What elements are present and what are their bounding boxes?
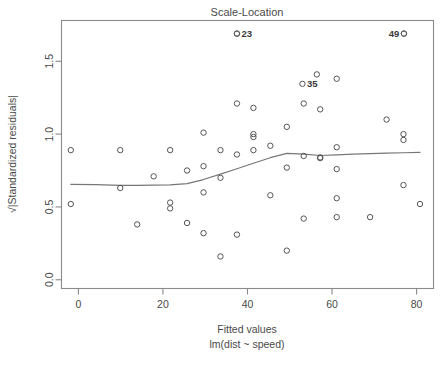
- data-point: [118, 185, 123, 190]
- y-tick-label: 0.5: [43, 199, 55, 214]
- data-point: [167, 147, 172, 152]
- plot-frame: [62, 21, 434, 289]
- y-axis-ticks: 0.00.51.01.5: [43, 54, 61, 287]
- x-tick-label: 80: [411, 298, 423, 310]
- data-point: [401, 137, 406, 142]
- x-tick-label: 20: [157, 298, 169, 310]
- y-tick-label: 0.0: [43, 272, 55, 287]
- data-point: [201, 163, 206, 168]
- data-point: [134, 222, 139, 227]
- data-point: [334, 145, 339, 150]
- loess-smooth-line: [71, 152, 420, 185]
- data-point: [314, 72, 319, 77]
- point-label-23: 23: [241, 28, 252, 39]
- data-point: [384, 117, 389, 122]
- data-point: [201, 190, 206, 195]
- data-point: [301, 216, 306, 221]
- data-point: [268, 143, 273, 148]
- data-point: [234, 152, 239, 157]
- x-tick-label: 60: [326, 298, 338, 310]
- data-point: [268, 193, 273, 198]
- data-point: [334, 76, 339, 81]
- y-tick-label: 1.0: [43, 127, 55, 142]
- labeled-data-point: [401, 31, 406, 36]
- data-point: [201, 230, 206, 235]
- data-point: [118, 147, 123, 152]
- data-point: [334, 214, 339, 219]
- scale-location-plot: Scale-Location 020406080 0.00.51.01.5 23…: [0, 0, 444, 366]
- data-point: [218, 175, 223, 180]
- x-tick-label: 0: [75, 298, 81, 310]
- data-point: [234, 101, 239, 106]
- data-point: [167, 200, 172, 205]
- data-point: [301, 101, 306, 106]
- x-axis-subtitle: lm(dist ~ speed): [210, 338, 285, 350]
- data-point: [184, 168, 189, 173]
- data-point: [167, 206, 172, 211]
- data-point: [234, 232, 239, 237]
- data-point: [367, 214, 372, 219]
- data-point: [68, 147, 73, 152]
- data-point: [218, 254, 223, 259]
- data-point: [151, 174, 156, 179]
- outlier-labels-group: 233549: [234, 28, 406, 89]
- labeled-data-point: [300, 81, 305, 86]
- data-point: [334, 166, 339, 171]
- data-point: [334, 196, 339, 201]
- x-axis-title: Fitted values: [217, 323, 277, 335]
- data-point: [284, 248, 289, 253]
- data-point: [417, 201, 422, 206]
- x-axis-ticks: 020406080: [75, 289, 422, 310]
- point-label-49: 49: [389, 28, 400, 39]
- data-point: [201, 130, 206, 135]
- y-axis-title: √|Standardized residuals|: [6, 95, 18, 213]
- x-tick-label: 40: [242, 298, 254, 310]
- data-point: [284, 165, 289, 170]
- point-label-35: 35: [307, 78, 318, 89]
- data-points-group: [68, 31, 423, 259]
- labeled-data-point: [234, 31, 239, 36]
- data-point: [401, 131, 406, 136]
- data-point: [401, 182, 406, 187]
- data-point: [68, 201, 73, 206]
- data-point: [284, 124, 289, 129]
- page-title: Scale-Location: [211, 6, 284, 18]
- data-point: [184, 220, 189, 225]
- data-point: [218, 147, 223, 152]
- loess-smooth-path: [71, 152, 420, 185]
- data-point: [251, 147, 256, 152]
- y-tick-label: 1.5: [43, 54, 55, 69]
- plot-canvas: Scale-Location 020406080 0.00.51.01.5 23…: [0, 0, 444, 366]
- data-point: [251, 105, 256, 110]
- data-point: [318, 107, 323, 112]
